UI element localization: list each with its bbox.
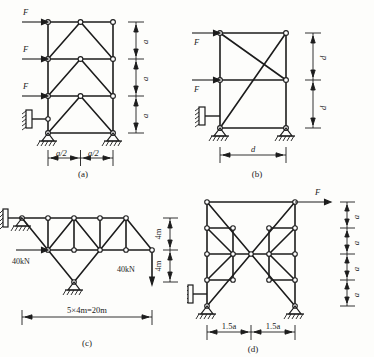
- load-arrowhead-vertical: [150, 277, 155, 285]
- load-arrow-vertical: [150, 277, 155, 285]
- dim-label-a-1: a: [140, 114, 150, 118]
- figure-b: F F: [187, 0, 374, 180]
- support-pin-left: [37, 133, 57, 146]
- support-horizontal-link: [187, 285, 207, 305]
- load-arrow-horizontal: [16, 247, 48, 252]
- figure-d-svg: F: [187, 180, 374, 357]
- dim-label-a-3: a: [140, 40, 150, 44]
- dim-label-a-1: a: [351, 293, 361, 297]
- joint: [293, 226, 298, 231]
- joint: [267, 226, 272, 231]
- dim-label-4m-upper: 4m: [153, 228, 163, 239]
- support-pin-right: [284, 306, 304, 319]
- member-diagonal-3l: [48, 22, 81, 59]
- member-web-b: [74, 218, 100, 250]
- joint: [111, 20, 116, 25]
- joint: [249, 252, 254, 257]
- support-pin-right: [275, 128, 295, 141]
- support-pin-right: [102, 133, 122, 146]
- joint: [46, 216, 51, 221]
- dim-label-a-2: a: [351, 267, 361, 271]
- joint: [231, 252, 236, 257]
- member-diagonal-3r: [81, 22, 114, 59]
- dim-label-a2-left: a/2: [56, 148, 68, 158]
- member-support-strut-left: [48, 250, 74, 282]
- joint: [205, 200, 210, 205]
- load-label-F-bot: F: [22, 81, 29, 91]
- load-label-F: F: [314, 187, 321, 197]
- support-horizontal-link: [0, 209, 31, 231]
- load-label-F-top: F: [22, 7, 29, 17]
- dim-label-4m-lower: 4m: [153, 260, 163, 271]
- dimension-vertical-d: [305, 33, 321, 128]
- joint: [293, 278, 298, 283]
- member-brace-r1: [269, 254, 295, 280]
- joint-group: [46, 20, 116, 136]
- member-diagonal-upper-a: [220, 33, 286, 80]
- joint: [205, 226, 210, 231]
- dimension-horizontal-15a: [207, 325, 295, 340]
- figure-a-svg: F F F: [0, 0, 187, 180]
- support-horizontal-link: [195, 107, 220, 127]
- figure-b-caption: (b): [252, 169, 263, 179]
- joint: [124, 216, 129, 221]
- figure-d-caption: (d): [248, 344, 259, 354]
- dim-label-15a-right: 1.5a: [266, 321, 281, 331]
- member-web-c: [100, 218, 126, 250]
- dim-label-a-4: a: [351, 215, 361, 219]
- member-support-strut-right: [74, 250, 100, 282]
- figure-a-caption: (a): [78, 169, 88, 179]
- joint: [267, 252, 272, 257]
- dimension-vertical-4m: [163, 218, 178, 282]
- dim-label-a-3: a: [351, 241, 361, 245]
- figure-a: F F F: [0, 0, 187, 180]
- load-arrow-group: [295, 199, 331, 204]
- diagram-sheet: F F F: [0, 0, 374, 357]
- member-web-a: [48, 218, 74, 250]
- dim-label-a2-right: a/2: [88, 148, 100, 158]
- joint: [98, 216, 103, 221]
- member-diagonal-2l: [48, 59, 81, 96]
- dim-label-span: 5×4m=20m: [67, 305, 107, 315]
- figure-c-svg: 40kN 40kN 4m 4m 5×4m=20m (c): [0, 180, 187, 357]
- load-arrowhead-top: [325, 199, 332, 204]
- dim-label-15a-left: 1.5a: [222, 321, 237, 331]
- load-label-F-mid: F: [22, 44, 29, 54]
- joint: [284, 31, 289, 36]
- joint: [98, 248, 103, 253]
- support-pin-left: [196, 306, 216, 319]
- load-label-40kN-left: 40kN: [12, 257, 30, 266]
- load-label-F-top: F: [193, 37, 200, 47]
- joint: [111, 94, 116, 99]
- figure-c: 40kN 40kN 4m 4m 5×4m=20m (c): [0, 180, 187, 357]
- joint: [205, 278, 210, 283]
- dim-label-a-2: a: [140, 77, 150, 81]
- joint: [231, 226, 236, 231]
- member-diagonal-1l: [48, 96, 81, 133]
- joint: [111, 57, 116, 62]
- dim-label-d-bot: d: [318, 105, 328, 110]
- member-brace-l1: [207, 254, 233, 280]
- figure-c-caption: (c): [82, 338, 92, 348]
- joint: [293, 252, 298, 257]
- support-pin-left: [209, 128, 229, 141]
- joint: [78, 57, 83, 62]
- joint: [72, 216, 77, 221]
- member-diagonal-1r: [81, 96, 114, 133]
- member-brace-r3: [269, 228, 295, 254]
- member-brace-l3: [207, 228, 233, 254]
- joint: [284, 78, 289, 83]
- load-label-40kN-right: 40kN: [117, 265, 135, 274]
- joint: [78, 94, 83, 99]
- joint: [78, 20, 83, 25]
- joint: [124, 248, 129, 253]
- dim-label-d-width: d: [251, 144, 256, 154]
- joint: [150, 248, 155, 253]
- joint: [231, 278, 236, 283]
- joint: [267, 278, 272, 283]
- joint: [205, 252, 210, 257]
- figure-d: F: [187, 180, 374, 357]
- figure-b-svg: F F: [187, 0, 374, 180]
- dim-label-d-top: d: [318, 55, 328, 60]
- member-diagonal-end-right: [126, 218, 152, 250]
